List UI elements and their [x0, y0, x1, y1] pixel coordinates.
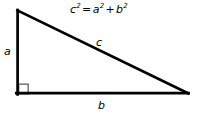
side-label-b: b: [98, 100, 105, 111]
equation-plus-sign: +: [104, 3, 116, 16]
equation-equals-sign: =: [81, 3, 93, 16]
pythagorean-triangle-diagram: c2=a2+b2 a c b: [0, 0, 198, 117]
equation-b-exponent: 2: [123, 2, 128, 10]
pythagorean-equation: c2=a2+b2: [0, 4, 198, 15]
side-label-c: c: [96, 37, 102, 48]
equation-a-base: a: [93, 3, 100, 16]
side-label-a: a: [4, 46, 11, 57]
